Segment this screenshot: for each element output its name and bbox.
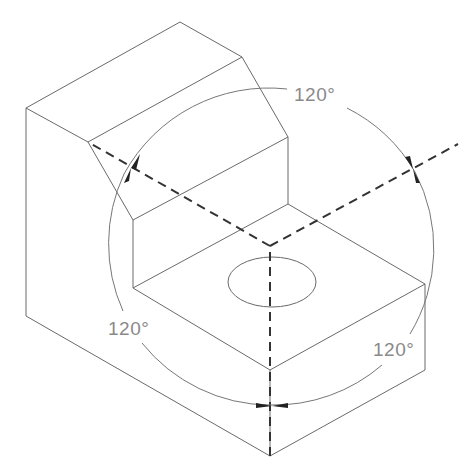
arrow-icon — [405, 156, 413, 169]
angle-label-right: 120° — [373, 339, 414, 360]
angle-labels: 120° 120° 120° — [108, 84, 414, 360]
isometric-drawing: 120° 120° 120° — [0, 0, 474, 475]
arc-left-upper — [109, 174, 124, 311]
angle-label-top: 120° — [294, 84, 335, 105]
chamfer-right — [242, 57, 288, 204]
arc-right-upper — [410, 172, 434, 334]
riser-edge — [133, 204, 288, 288]
back-top-face — [26, 22, 242, 142]
arrow-icon — [124, 168, 131, 183]
angle-label-left: 120° — [108, 318, 149, 339]
arc-top-right — [347, 108, 415, 172]
arc-top-left — [124, 88, 287, 174]
arc-bottom-right — [270, 365, 382, 405]
chamfer-bottom-edge — [133, 137, 288, 220]
hole-ellipse — [228, 257, 316, 307]
isometric-axes — [88, 142, 458, 456]
right-front-face — [270, 284, 425, 456]
axis-right — [270, 144, 458, 246]
axis-left — [88, 142, 270, 246]
left-outer-face — [26, 108, 270, 456]
arc-left-lower — [142, 343, 270, 405]
object-edges — [26, 22, 425, 456]
